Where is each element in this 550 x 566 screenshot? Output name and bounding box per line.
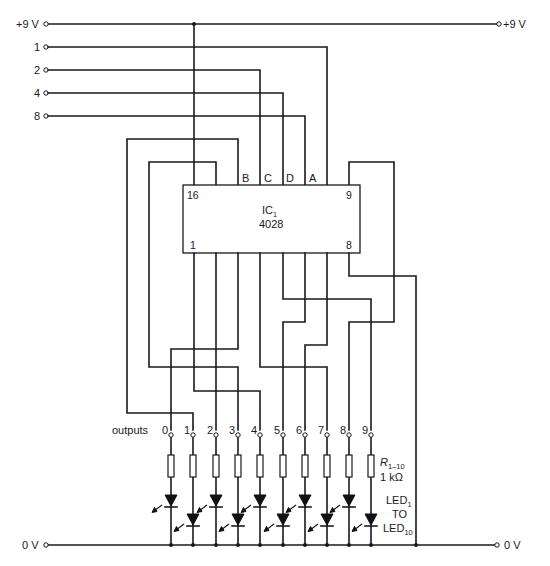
output-terminal bbox=[303, 433, 307, 437]
output-terminal bbox=[369, 433, 373, 437]
output-terminal bbox=[258, 433, 262, 437]
resistor bbox=[168, 455, 174, 477]
input-4: 4 bbox=[34, 87, 283, 185]
led-icon bbox=[197, 495, 222, 513]
output-column-0: 0 bbox=[152, 424, 177, 547]
output-column-1: 1 bbox=[174, 424, 199, 547]
led-icon bbox=[308, 514, 333, 532]
ground-terminal-right bbox=[495, 543, 499, 547]
resistor bbox=[235, 455, 241, 477]
input-label: 1 bbox=[34, 41, 40, 53]
output-number-label: 4 bbox=[251, 424, 257, 436]
svg-text:LED10: LED10 bbox=[383, 522, 413, 537]
led-label: LED1 TO LED10 bbox=[383, 494, 413, 537]
output-number-label: 7 bbox=[318, 424, 324, 436]
bcd-inputs: 1 2 4 8 bbox=[34, 41, 327, 185]
output-terminal bbox=[169, 433, 173, 437]
led-icon bbox=[330, 495, 355, 513]
output-column-8: 8 bbox=[330, 424, 355, 547]
pin-label-c: C bbox=[264, 172, 272, 184]
ground-label-left: 0 V bbox=[22, 539, 39, 551]
input-label: 2 bbox=[34, 64, 40, 76]
resistor bbox=[257, 455, 263, 477]
resistor bbox=[213, 455, 219, 477]
supply-terminal-left bbox=[44, 22, 48, 26]
output-number-label: 6 bbox=[296, 424, 302, 436]
pin-label-b: B bbox=[242, 172, 249, 184]
output-number-label: 1 bbox=[184, 424, 190, 436]
resistor bbox=[324, 455, 330, 477]
output-column-7: 7 bbox=[308, 424, 333, 547]
pin-16-label: 16 bbox=[187, 189, 199, 201]
output-number-label: 9 bbox=[362, 424, 368, 436]
resistor bbox=[190, 455, 196, 477]
svg-text:TO: TO bbox=[392, 508, 408, 520]
led-icon bbox=[352, 514, 377, 532]
input-label: 4 bbox=[34, 87, 40, 99]
output-number-label: 3 bbox=[229, 424, 235, 436]
pin-label-d: D bbox=[286, 172, 294, 184]
supply-label-left: +9 V bbox=[16, 18, 40, 30]
output-columns: 0123456789 bbox=[152, 424, 377, 547]
output-number-label: 8 bbox=[340, 424, 346, 436]
resistor bbox=[368, 455, 374, 477]
supply-label-right: +9 V bbox=[503, 18, 527, 30]
ic-part-number: 4028 bbox=[259, 218, 283, 230]
led-icon bbox=[241, 495, 266, 513]
output-column-2: 2 bbox=[197, 424, 222, 547]
svg-text:LED1: LED1 bbox=[386, 494, 412, 509]
output-terminal bbox=[281, 433, 285, 437]
pin-8-label: 8 bbox=[346, 239, 352, 251]
led-icon bbox=[174, 514, 199, 532]
led-icon bbox=[152, 495, 177, 513]
led-icon bbox=[219, 514, 244, 532]
pin-label-a: A bbox=[309, 172, 317, 184]
output-number-label: 2 bbox=[207, 424, 213, 436]
input-label: 8 bbox=[34, 110, 40, 122]
resistor-label: R1–10 1 kΩ bbox=[380, 456, 405, 483]
led-icon bbox=[264, 514, 289, 532]
output-terminal bbox=[347, 433, 351, 437]
supply-terminal-right bbox=[497, 22, 501, 26]
svg-text:1 kΩ: 1 kΩ bbox=[380, 471, 403, 483]
outputs-label: outputs bbox=[112, 424, 149, 436]
resistor bbox=[302, 455, 308, 477]
led-icon bbox=[286, 495, 311, 513]
output-terminal bbox=[325, 433, 329, 437]
output-column-5: 5 bbox=[264, 424, 289, 547]
bottom-routing bbox=[171, 253, 418, 547]
output-column-6: 6 bbox=[286, 424, 311, 547]
output-terminal bbox=[214, 433, 218, 437]
ground-rail: 0 V 0 V bbox=[22, 539, 521, 551]
output-terminal bbox=[236, 433, 240, 437]
output-number-label: 0 bbox=[162, 424, 168, 436]
ground-terminal-left bbox=[44, 543, 48, 547]
output-column-9: 9 bbox=[352, 424, 377, 547]
resistor bbox=[280, 455, 286, 477]
ic-4028: 16 9 1 8 IC1 4028 B C D A bbox=[183, 172, 360, 253]
ground-label-right: 0 V bbox=[504, 539, 521, 551]
supply-rail: +9 V +9 V bbox=[16, 18, 527, 185]
pin-1-label: 1 bbox=[190, 239, 196, 251]
svg-text:R1–10: R1–10 bbox=[380, 456, 405, 471]
output-number-label: 5 bbox=[274, 424, 280, 436]
circuit-diagram: +9 V +9 V 1 2 4 8 bbox=[0, 0, 550, 566]
output-column-3: 3 bbox=[219, 424, 244, 547]
input-2: 2 bbox=[34, 64, 260, 185]
resistor bbox=[346, 455, 352, 477]
output-column-4: 4 bbox=[241, 424, 266, 547]
pin-9-label: 9 bbox=[346, 189, 352, 201]
output-terminal bbox=[191, 433, 195, 437]
